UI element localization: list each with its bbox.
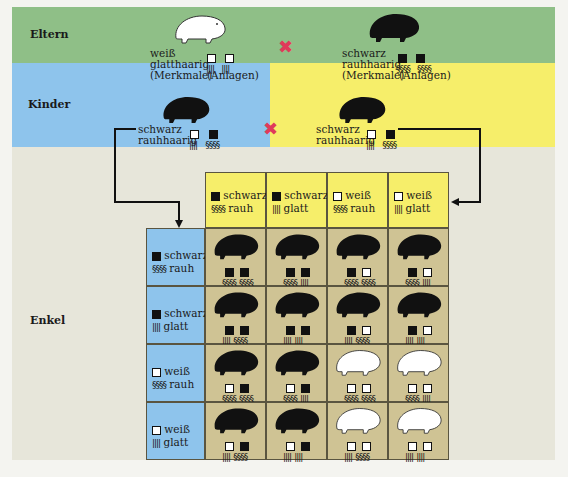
hair-label: glatt xyxy=(160,436,188,448)
parent2-hair-genes: §§§§ §§§§ xyxy=(396,58,431,77)
header-label: weiß|||| glatt xyxy=(394,189,432,216)
connector-line xyxy=(114,128,136,130)
black-square-icon xyxy=(211,192,220,201)
enkel-label: Enkel xyxy=(30,314,65,327)
wavy-hair-icon: §§§§ xyxy=(233,452,247,462)
child1-hair-genes: |||| §§§§ xyxy=(189,134,219,153)
wavy-hair-icon: §§§§ xyxy=(152,263,166,276)
black-guinea-pig-icon xyxy=(394,289,444,319)
offspring-cell: §§§§§§§§ xyxy=(205,228,266,286)
parent1-hair-genes: |||| |||| xyxy=(206,58,229,77)
offspring-cell: §§§§|||| xyxy=(266,228,327,286)
black-square-icon xyxy=(272,192,281,201)
color-label: weiß xyxy=(161,423,190,435)
wavy-hair-icon: §§§§ xyxy=(396,64,410,74)
color-label: weiß xyxy=(161,365,190,377)
hair-label: rauh xyxy=(166,378,194,390)
offspring-cell: |||||||| xyxy=(388,286,449,344)
hair-label: glatt xyxy=(280,202,308,214)
wavy-hair-icon: §§§§ xyxy=(355,452,369,462)
arrow-down-icon xyxy=(175,220,183,228)
straight-hair-icon: |||| xyxy=(344,452,352,462)
white-guinea-pig-icon xyxy=(172,12,228,46)
white-square-icon xyxy=(333,192,342,201)
gene-hair: |||||||| xyxy=(283,446,302,465)
hair-label: rauh xyxy=(166,262,194,274)
black-guinea-pig-icon xyxy=(211,231,261,261)
offspring-cell: ||||§§§§ xyxy=(205,286,266,344)
black-guinea-pig-icon xyxy=(272,405,322,435)
straight-hair-icon: |||| xyxy=(294,452,302,462)
cross-icon: ✖ xyxy=(278,36,293,57)
straight-hair-icon: |||| xyxy=(405,452,413,462)
white-square-icon xyxy=(394,192,403,201)
row-header: schwarz§§§§ rauh xyxy=(146,228,205,286)
cross-icon: ✖ xyxy=(263,118,278,139)
straight-hair-icon: |||| xyxy=(416,452,424,462)
offspring-cell: |||||||| xyxy=(266,286,327,344)
header-label: weiß§§§§ rauh xyxy=(152,365,194,392)
wavy-hair-icon: §§§§ xyxy=(211,203,225,216)
gene-hair: ||||§§§§ xyxy=(222,446,247,465)
black-square-icon xyxy=(301,326,310,335)
black-guinea-pig-icon xyxy=(211,289,261,319)
connector-line xyxy=(458,201,481,203)
column-header: weiß|||| glatt xyxy=(388,172,449,228)
white-square-icon xyxy=(152,368,161,377)
straight-hair-icon: |||| xyxy=(206,64,214,74)
header-label: schwarz§§§§ rauh xyxy=(211,189,267,216)
row-header: weiß|||| glatt xyxy=(146,402,205,460)
offspring-cell: §§§§|||| xyxy=(388,228,449,286)
connector-line xyxy=(479,128,481,202)
header-label: schwarz|||| glatt xyxy=(272,189,328,216)
color-label: weiß xyxy=(403,189,432,201)
color-label: weiß xyxy=(342,189,371,201)
straight-hair-icon: |||| xyxy=(272,203,280,216)
straight-hair-icon: |||| xyxy=(394,203,402,216)
black-guinea-pig-icon xyxy=(366,10,422,46)
wavy-hair-icon: §§§§ xyxy=(333,203,347,216)
connector-line xyxy=(114,128,116,202)
header-label: schwarz§§§§ rauh xyxy=(152,249,208,276)
column-header: schwarz§§§§ rauh xyxy=(205,172,266,228)
child2-hair-genes: |||| §§§§ xyxy=(366,134,396,153)
white-square-icon xyxy=(152,426,161,435)
gene-hair: ||||§§§§ xyxy=(344,446,369,465)
offspring-cell: ||||§§§§ xyxy=(327,402,388,460)
straight-hair-icon: |||| xyxy=(152,437,160,450)
offspring-cell: §§§§|||| xyxy=(388,344,449,402)
black-square-icon xyxy=(301,442,310,451)
column-header: weiß§§§§ rauh xyxy=(327,172,388,228)
straight-hair-icon: |||| xyxy=(189,140,197,150)
hair-label: rauh xyxy=(347,202,375,214)
eltern-label: Eltern xyxy=(30,28,68,41)
row-header: schwarz|||| glatt xyxy=(146,286,205,344)
color-label: schwarz xyxy=(161,249,208,261)
color-label: schwarz xyxy=(220,189,267,201)
color-label: schwarz xyxy=(161,307,208,319)
hair-label: rauh xyxy=(225,202,253,214)
color-label: schwarz xyxy=(281,189,328,201)
wavy-hair-icon: §§§§ xyxy=(417,64,431,74)
straight-hair-icon: |||| xyxy=(222,452,230,462)
black-guinea-pig-icon xyxy=(394,231,444,261)
header-label: weiß|||| glatt xyxy=(152,423,190,450)
connector-line xyxy=(398,128,480,130)
wavy-hair-icon: §§§§ xyxy=(152,379,166,392)
row-header: weiß§§§§ rauh xyxy=(146,344,205,402)
hair-label: glatt xyxy=(402,202,430,214)
black-guinea-pig-icon xyxy=(272,289,322,319)
header-label: weiß§§§§ rauh xyxy=(333,189,375,216)
gene-hair: |||||||| xyxy=(405,446,424,465)
white-guinea-pig-icon xyxy=(333,347,383,377)
parent1-caption-traits: (Merkmale) xyxy=(150,70,212,81)
offspring-cell: |||||||| xyxy=(388,402,449,460)
black-square-icon xyxy=(152,310,161,319)
connector-line xyxy=(178,201,180,221)
offspring-cell: §§§§§§§§ xyxy=(205,344,266,402)
black-guinea-pig-icon xyxy=(211,347,261,377)
offspring-cell: §§§§|||| xyxy=(266,344,327,402)
offspring-cell: ||||§§§§ xyxy=(205,402,266,460)
offspring-cell: §§§§§§§§ xyxy=(327,228,388,286)
white-square-icon xyxy=(423,326,432,335)
